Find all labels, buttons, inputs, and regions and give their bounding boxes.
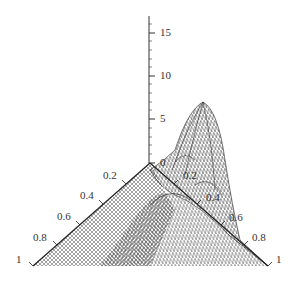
z-tick-0: 0: [160, 157, 166, 168]
left-tick-0.6: 0.6: [57, 211, 71, 222]
right-tick-0.2: 0.2: [183, 170, 197, 181]
z-axis: [149, 16, 155, 163]
right-tick-0.4: 0.4: [206, 192, 220, 203]
left-tick-0.2: 0.2: [103, 170, 117, 181]
left-tick-0.4: 0.4: [80, 190, 94, 201]
z-tick-10: 10: [160, 70, 171, 81]
right-tick-0.8: 0.8: [252, 232, 266, 243]
left-tick-0.8: 0.8: [33, 232, 47, 243]
left-tick-1: 1: [16, 254, 22, 265]
z-tick-15: 15: [160, 27, 171, 38]
right-tick-1: 1: [276, 254, 282, 265]
right-tick-0.6: 0.6: [229, 212, 243, 223]
z-tick-5: 5: [160, 113, 166, 124]
